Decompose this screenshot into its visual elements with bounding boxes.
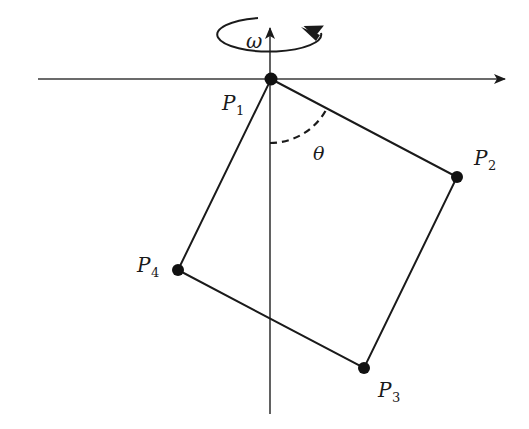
theta-angle-arc <box>270 110 326 143</box>
svg-text:1: 1 <box>236 103 244 118</box>
point-p1 <box>265 73 278 86</box>
point-p4 <box>172 264 184 276</box>
point-p3 <box>358 362 370 374</box>
svg-text:4: 4 <box>151 265 159 280</box>
label-p2: P 2 <box>473 146 496 173</box>
svg-text:P: P <box>221 91 236 115</box>
svg-text:3: 3 <box>392 390 400 405</box>
label-p1: P 1 <box>221 91 244 118</box>
svg-text:2: 2 <box>488 158 496 173</box>
theta-label: θ <box>313 142 325 164</box>
label-p4: P 4 <box>136 253 159 280</box>
diagram-canvas: ω θ P 1 P 2 P 3 P 4 <box>0 0 529 429</box>
svg-text:P: P <box>473 146 488 170</box>
svg-text:P: P <box>136 253 151 277</box>
label-p3: P 3 <box>377 378 400 405</box>
omega-label: ω <box>246 29 262 53</box>
point-p2 <box>451 171 463 183</box>
svg-text:P: P <box>377 378 392 402</box>
